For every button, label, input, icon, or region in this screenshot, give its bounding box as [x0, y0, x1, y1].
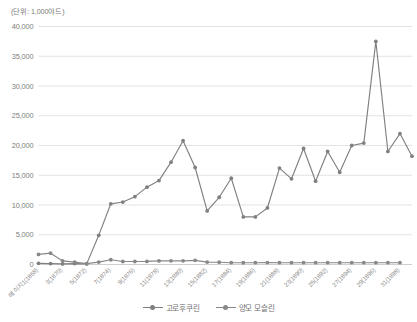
x-axis-tick-label: 7(1874) — [92, 266, 112, 286]
y-axis-tick-label: 20,000 — [12, 141, 34, 150]
series-data-point — [49, 262, 53, 266]
x-axis-tick-label: 17(1884) — [210, 266, 232, 288]
series-data-point — [253, 261, 257, 265]
x-axis-tick-label: 25(1892) — [306, 266, 328, 288]
x-axis-tick-label: 21(1888) — [258, 266, 280, 288]
y-axis-tick-label: 40,000 — [12, 22, 34, 31]
series-data-point — [229, 261, 233, 265]
series-data-point — [85, 262, 89, 266]
series-data-point — [386, 261, 390, 265]
series-data-point — [49, 251, 53, 255]
series-data-point — [350, 144, 354, 148]
series-data-point — [290, 177, 294, 181]
chart-legend: 고로후쿠린양모 모슬린 — [0, 302, 417, 313]
series-data-point — [37, 252, 41, 256]
y-axis-tick-label: 25,000 — [12, 111, 34, 120]
series-data-point — [217, 195, 221, 199]
x-axis-tick-label: 29(1896) — [355, 266, 377, 288]
series-data-point — [362, 261, 366, 265]
y-axis-tick-label: 10,000 — [12, 201, 34, 210]
data-series-group — [37, 39, 414, 265]
series-data-point — [338, 261, 342, 265]
series-data-point — [302, 261, 306, 265]
series-data-point — [278, 261, 282, 265]
series-data-point — [181, 259, 185, 263]
x-axis-tick-label: 13(1880) — [162, 266, 184, 288]
series-data-point — [398, 132, 402, 136]
y-axis-tick-label: 15,000 — [12, 171, 34, 180]
x-axis-tick-label: 5(1872) — [68, 266, 88, 286]
series-data-point — [374, 39, 378, 43]
legend-swatch-icon — [216, 304, 236, 312]
series-data-point — [133, 260, 137, 264]
series-data-point — [362, 141, 366, 145]
series-data-point — [241, 215, 245, 219]
series-data-point — [205, 209, 209, 213]
series-data-point — [410, 154, 414, 158]
legend-label: 고로후쿠린 — [166, 302, 200, 313]
series-data-point — [386, 150, 390, 154]
series-data-point — [73, 260, 77, 264]
x-axis-tick-labels: 메이지1(1868)3(1870)5(1872)7(1874)9(1876)11… — [7, 266, 401, 299]
series-data-point — [121, 260, 125, 264]
x-axis-tick-label: 3(1870) — [44, 266, 64, 286]
x-axis-tick-label: 11(1878) — [138, 266, 160, 288]
x-axis-tick-label: 19(1886) — [234, 266, 256, 288]
series-data-point — [169, 160, 173, 164]
series-data-point — [193, 258, 197, 262]
series-data-point — [314, 261, 318, 265]
series-data-point — [217, 260, 221, 264]
legend-swatch-icon — [143, 304, 163, 312]
x-axis-tick-label: 23(1890) — [282, 266, 304, 288]
series-data-point — [157, 259, 161, 263]
series-data-point — [266, 206, 270, 210]
series-data-point — [266, 261, 270, 265]
series-data-point — [338, 170, 342, 174]
series-data-point — [253, 215, 257, 219]
series-data-point — [61, 259, 65, 263]
series-data-point — [181, 139, 185, 143]
series-data-point — [157, 179, 161, 183]
series-data-point — [314, 179, 318, 183]
series-data-point — [278, 166, 282, 170]
line-chart: (단위: 1,000야드) 05,00010,00015,00020,00025… — [0, 0, 417, 322]
series-data-point — [350, 261, 354, 265]
series-data-point — [169, 259, 173, 263]
series-data-point — [374, 261, 378, 265]
y-axis-tick-label: 30,000 — [12, 82, 34, 91]
series-data-point — [145, 185, 149, 189]
series-data-point — [109, 202, 113, 206]
series-data-point — [241, 261, 245, 265]
series-data-point — [302, 147, 306, 151]
y-axis-tick-labels: 05,00010,00015,00020,00025,00030,00035,0… — [12, 22, 34, 269]
series-data-point — [193, 166, 197, 170]
legend-label: 양모 모슬린 — [239, 302, 275, 313]
series-data-point — [97, 233, 101, 237]
x-axis-tick-label: 31(1898) — [379, 266, 401, 288]
x-axis-tick-label: 27(1894) — [331, 266, 353, 288]
y-axis-tick-label: 5,000 — [16, 230, 34, 239]
series-data-point — [145, 260, 149, 264]
y-axis-tick-label: 35,000 — [12, 52, 34, 61]
legend-entry[interactable]: 고로후쿠린 — [143, 302, 200, 313]
x-axis-tick-label: 메이지1(1868) — [7, 266, 40, 299]
series-data-point — [205, 260, 209, 264]
series-data-point — [37, 261, 41, 265]
series-data-point — [290, 261, 294, 265]
series-data-point — [326, 261, 330, 265]
chart-plot-area: 05,00010,00015,00020,00025,00030,00035,0… — [0, 0, 417, 322]
series-data-point — [398, 261, 402, 265]
series-data-point — [109, 258, 113, 262]
series-data-point — [326, 150, 330, 154]
gridlines — [39, 27, 413, 265]
series-data-point — [133, 195, 137, 199]
series-data-point — [121, 200, 125, 204]
x-axis-tick-label: 9(1876) — [116, 266, 136, 286]
series-line — [39, 41, 413, 264]
series-data-point — [97, 260, 101, 264]
x-axis-tick-label: 15(1882) — [186, 266, 208, 288]
series-data-point — [229, 176, 233, 180]
legend-entry[interactable]: 양모 모슬린 — [216, 302, 275, 313]
